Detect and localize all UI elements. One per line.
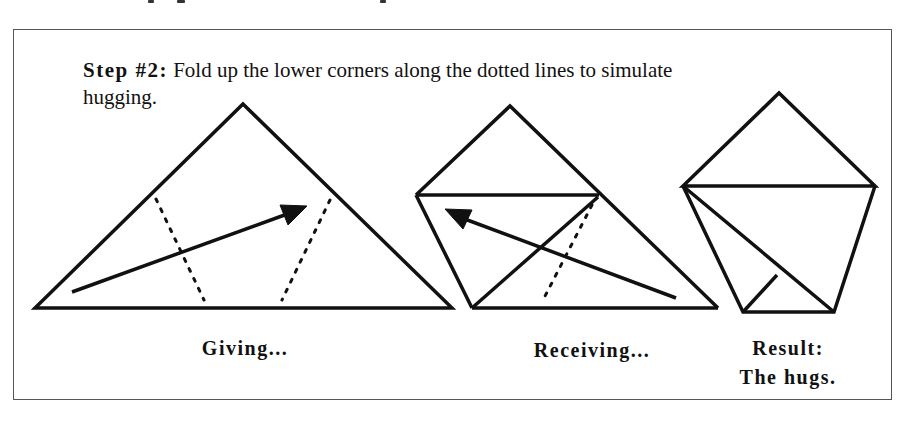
giving-diagram (35, 104, 452, 308)
giving-arrow-shaft (72, 213, 290, 292)
receiving-diagram (416, 106, 718, 308)
folded-corner-edge (472, 197, 598, 308)
receiving-arrow-shaft (462, 218, 676, 298)
caption-giving: Giving... (185, 337, 305, 360)
fold-line-left (156, 199, 204, 300)
result-diagram (683, 93, 875, 312)
caption-receiving: Receiving... (512, 339, 672, 362)
top-triangle (683, 93, 875, 186)
paper-triangle (35, 104, 452, 308)
caption-result-sub: The hugs. (728, 366, 848, 389)
top-flap (416, 106, 718, 308)
arrow-head-icon (280, 205, 307, 225)
caption-result: Result: (738, 337, 838, 360)
hug-small-fold (743, 275, 777, 312)
lower-body (683, 186, 875, 312)
arrow-head-icon (445, 209, 472, 229)
